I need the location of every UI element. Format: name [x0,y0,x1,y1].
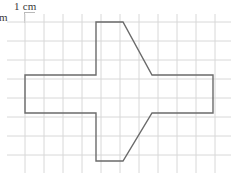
grid-unit-label-top: 1 cm [14,0,37,12]
grid-area [7,14,231,173]
figure-canvas: 1 cm cm [0,0,233,180]
cross-polygon-shape [7,14,231,173]
cross-polygon-outline [25,22,213,161]
